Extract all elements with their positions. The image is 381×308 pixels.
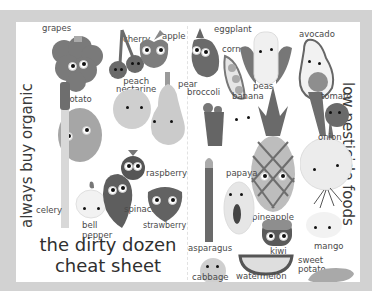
kiwi-icon	[260, 218, 294, 248]
label-tomato: tomato	[321, 92, 352, 101]
label-asparagus: asparagus	[188, 244, 232, 253]
grapes-eye-left	[68, 62, 77, 71]
cherry-eye	[114, 68, 117, 71]
tomato-icon	[324, 102, 350, 128]
pear-eye	[153, 120, 156, 123]
label-celery: celery	[36, 206, 62, 215]
kiwi-eye-right	[279, 232, 288, 241]
label-mango: mango	[314, 242, 343, 251]
cherry-eye	[120, 68, 123, 71]
grapes-icon	[48, 34, 108, 94]
broccoli-icon	[200, 102, 228, 146]
corn-eye	[259, 50, 262, 53]
label-papaya: papaya	[226, 169, 257, 178]
apple-eye-left	[142, 46, 151, 55]
spinach-eye-left	[108, 186, 117, 195]
strawberry-eye-right	[168, 196, 177, 205]
cabbage-eye	[206, 265, 209, 268]
mango-icon	[304, 210, 344, 240]
strawberry-icon	[144, 182, 186, 224]
eggplant-eye-left	[192, 46, 201, 55]
corn-eye	[270, 48, 273, 51]
banana-eye	[235, 118, 238, 121]
papaya-eye	[240, 193, 243, 196]
avocado-eye	[308, 60, 311, 63]
raspberry-eye-left	[124, 162, 133, 171]
potato-eye-right	[82, 126, 91, 135]
papaya-eye	[229, 193, 232, 196]
left-side-heading: always buy organic	[20, 83, 35, 228]
pineapple-eye-right	[278, 172, 287, 181]
label-onion: onion	[318, 133, 342, 142]
asparagus-icon	[202, 154, 216, 244]
kiwi-eye-left	[266, 232, 275, 241]
apple-icon	[134, 28, 174, 72]
apple-eye-right	[156, 46, 165, 55]
label-grapes: grapes	[42, 24, 71, 33]
onion-eye	[313, 168, 316, 171]
spinach-eye-right	[118, 184, 127, 193]
sweet-potato-icon	[306, 266, 356, 282]
strawberry-eye-left	[152, 196, 161, 205]
label-broccoli: broccoli	[187, 88, 220, 97]
pineapple-eye-left	[260, 172, 269, 181]
label-watermelon: watermelon	[236, 272, 287, 281]
pear-eye	[170, 120, 173, 123]
papaya-icon	[222, 180, 256, 236]
raspberry-eye-right	[133, 162, 142, 171]
avocado-eye	[318, 62, 321, 65]
poster-card: always buy organic low pesticide foods t…	[16, 22, 360, 282]
onion-eye	[336, 164, 339, 167]
peach-eye	[126, 106, 129, 109]
tomato-eye	[338, 111, 341, 114]
mango-eye	[314, 226, 317, 229]
eggplant-eye-right	[201, 48, 210, 57]
label-raspberry: raspberry	[146, 169, 187, 178]
label-cabbage: cabbage	[192, 273, 229, 282]
mango-eye	[328, 226, 331, 229]
poster-title: the dirty dozen cheat sheet	[38, 234, 178, 276]
pear-icon	[146, 72, 190, 148]
peach-eye	[140, 106, 143, 109]
grapes-eye-right	[79, 60, 88, 69]
spinach-icon	[100, 172, 136, 232]
title-line-2: cheat sheet	[38, 255, 178, 276]
label-strawberry: strawberry	[143, 222, 186, 230]
bell-pepper-eye	[83, 207, 86, 210]
tomato-eye	[329, 111, 332, 114]
cabbage-eye	[216, 265, 219, 268]
